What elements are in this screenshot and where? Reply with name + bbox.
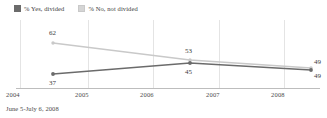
series-yes-point-2008 [309, 68, 313, 72]
legend-item-yes: % Yes, divided [14, 5, 64, 12]
legend-label-yes: % Yes, divided [24, 5, 64, 12]
x-tick-2007: 2007 [206, 90, 220, 99]
data-label-no-2008: 49 [314, 58, 322, 66]
legend-item-no: % No, not divided [78, 5, 137, 12]
data-label-no-2006: 53 [185, 47, 193, 55]
plot-svg: 62 53 49 37 45 49 [0, 18, 327, 92]
chart-legend: % Yes, divided % No, not divided [14, 3, 138, 14]
series-yes-point-2004 [51, 72, 55, 76]
legend-swatch-no-icon [78, 5, 85, 12]
x-tick-2008: 2008 [271, 90, 285, 99]
chart-footnote: June 5-July 6, 2008 [6, 104, 59, 113]
series-no-not-divided [51, 41, 312, 69]
plot-area: 62 53 49 37 45 49 [0, 18, 327, 92]
x-tick-2006: 2006 [140, 90, 154, 99]
x-axis-tick-labels: 2004 2005 2006 2007 2008 [0, 90, 327, 102]
gridlines [21, 20, 285, 88]
series-yes-divided [51, 61, 313, 76]
legend-label-no: % No, not divided [88, 5, 137, 12]
series-yes-point-2006 [188, 61, 192, 65]
data-label-yes-2004: 37 [49, 79, 57, 87]
line-chart-figure: % Yes, divided % No, not divided [0, 0, 327, 118]
data-label-yes-2006: 45 [185, 68, 193, 76]
x-tick-2004: 2004 [6, 90, 20, 99]
data-label-no-2004: 62 [49, 29, 57, 37]
x-tick-2005: 2005 [75, 90, 89, 99]
data-label-yes-2008: 49 [314, 72, 322, 80]
series-no-point-2004 [51, 41, 54, 44]
legend-swatch-yes-icon [14, 5, 21, 12]
